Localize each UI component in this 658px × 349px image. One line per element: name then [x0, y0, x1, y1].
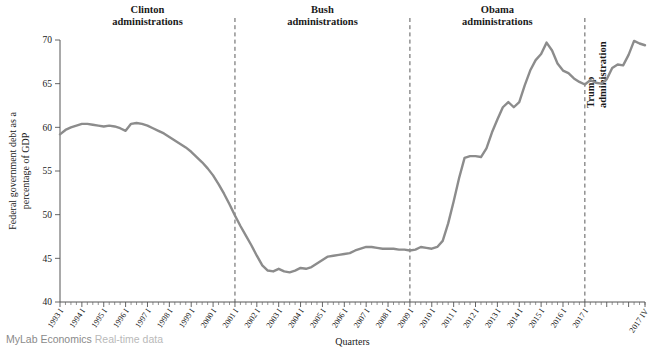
y-tick-label: 65 — [43, 79, 53, 89]
x-tick-label: 2016 I — [549, 307, 568, 330]
x-tick-label: 2009 I — [396, 307, 415, 330]
footer-attribution: MyLab Economics Real-time data — [6, 334, 163, 345]
x-tick-label: 2012 I — [461, 307, 480, 330]
x-tick-label: 1998 I — [155, 307, 174, 330]
x-tick-label: 2010 I — [418, 307, 437, 330]
x-tick-label: 1996 I — [111, 307, 130, 330]
x-tick-label: 2008 I — [374, 307, 393, 330]
x-tick-label: 1994 I — [68, 307, 87, 330]
x-tick-label: 1993 I — [46, 307, 65, 330]
x-tick-label: 2014 I — [505, 307, 524, 330]
administration-label-vertical: administration — [597, 41, 608, 108]
administration-label: administrations — [112, 16, 183, 27]
footer-subtitle: Real-time data — [95, 333, 163, 345]
x-tick-label: 1995 I — [90, 307, 109, 330]
footer-brand: MyLab Economics — [6, 333, 92, 345]
chart-figure: 404550556065701993 I1994 I1995 I1996 I19… — [0, 0, 658, 349]
svg-text:percentage of GDP: percentage of GDP — [20, 132, 31, 209]
administration-label: administrations — [462, 16, 533, 27]
x-tick-label: 2006 I — [330, 307, 349, 330]
y-tick-label: 60 — [43, 123, 53, 133]
administration-label: Obama — [481, 4, 515, 15]
axis-lines — [60, 40, 645, 302]
administration-label: administrations — [287, 16, 358, 27]
y-tick-label: 45 — [43, 254, 53, 264]
x-tick-label: 1999 I — [177, 307, 196, 330]
debt-gdp-line-chart: 404550556065701993 I1994 I1995 I1996 I19… — [0, 0, 658, 349]
x-tick-label: 2017 I — [571, 307, 590, 330]
svg-text:Federal government debt as a: Federal government debt as a — [7, 112, 18, 230]
x-tick-label: 2002 I — [243, 307, 262, 330]
y-tick-label: 40 — [43, 297, 53, 307]
x-axis-title: Quarters — [335, 336, 370, 347]
x-tick-label: 2017 IV — [628, 307, 651, 335]
x-tick-label: 2000 I — [199, 307, 218, 330]
x-tick-label: 2005 I — [308, 307, 327, 330]
x-tick-label: 2004 I — [286, 307, 305, 330]
debt-to-gdp-series — [60, 41, 645, 272]
x-tick-label: 1997 I — [133, 307, 152, 330]
x-tick-label: 2013 I — [483, 307, 502, 330]
administration-label: Bush — [311, 4, 334, 15]
administration-label: Clinton — [131, 4, 165, 15]
x-tick-label: 2003 I — [265, 307, 284, 330]
x-tick-label: 2001 I — [221, 307, 240, 330]
y-tick-label: 50 — [43, 210, 53, 220]
x-tick-label: 2015 I — [527, 307, 546, 330]
y-tick-label: 70 — [43, 35, 53, 45]
y-tick-label: 55 — [43, 166, 53, 176]
x-tick-label: 2011 I — [440, 307, 459, 330]
x-tick-label: 2007 I — [352, 307, 371, 330]
y-axis-title: Federal government debt as apercentage o… — [7, 112, 31, 230]
